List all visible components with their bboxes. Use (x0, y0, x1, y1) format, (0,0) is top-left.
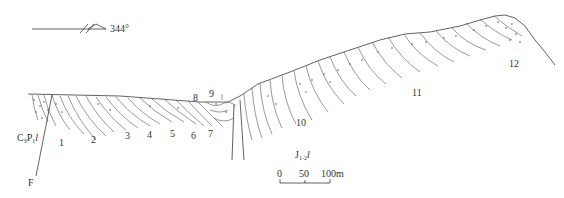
formation-right-base-sub: 1-2 (299, 155, 307, 161)
scale-bar (280, 179, 330, 183)
fault-line-f (36, 95, 52, 176)
fault-zone-complex (206, 94, 244, 160)
layer-number-3: 3 (125, 131, 130, 141)
layer-number-11: 11 (412, 88, 422, 98)
layer-number-12: 12 (509, 59, 519, 69)
layer-number-10: 10 (296, 118, 306, 128)
scale-tick-50: 50 (299, 169, 309, 179)
azimuth-label: 344° (110, 24, 129, 34)
formation-left-base: C (17, 132, 24, 143)
cross-section-drawing (0, 0, 564, 198)
formation-right-suffix: l (307, 149, 310, 160)
formation-label-left: C3P1l (17, 133, 38, 144)
topographic-profile (28, 15, 555, 102)
formation-left-suffix: l (35, 132, 38, 143)
layer-number-9: 9 (209, 89, 214, 99)
layer-number-1: 1 (59, 138, 64, 148)
layer-number-2: 2 (91, 135, 96, 145)
sandstone-stipple (33, 21, 520, 118)
geologic-cross-section: 344° C3P1l J1-2l F 1 2 3 4 5 6 7 8 9 10 … (0, 0, 564, 198)
right-strata (244, 16, 522, 140)
fault-label: F (28, 178, 34, 188)
orientation-arrow-icon (32, 24, 106, 33)
scale-tick-0: 0 (277, 169, 282, 179)
layer-number-5: 5 (170, 129, 175, 139)
layer-number-7: 7 (208, 129, 213, 139)
layer-number-4: 4 (147, 130, 152, 140)
layer-number-6: 6 (191, 131, 196, 141)
layer-number-8: 8 (193, 93, 198, 103)
formation-label-right: J1-2l (295, 150, 310, 161)
scale-tick-100m: 100m (321, 169, 344, 179)
